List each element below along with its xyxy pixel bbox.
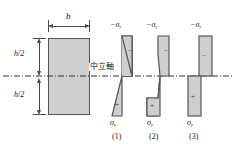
stress-diagram-3-bottom-subscript: y [191,122,193,127]
stress-diagram-3-shape [186,36,216,116]
h2-top-dimension-line [39,41,40,73]
figure-canvas: b h/2 h/2 中立軸 − + −σy σy (1) − [0,0,236,153]
stress-diagram-3-top-label: −σy [190,21,202,29]
h2-bottom-tick-lower [33,114,46,115]
stress-diagram-3-bottom-sign: + [191,94,195,101]
b-dimension-line [51,26,87,27]
stress-diagram-2-bottom-subscript: y [151,122,153,127]
h2-bottom-label-text: h/2 [14,90,24,99]
stress-diagram-3-top-sigma: −σ [190,20,199,29]
stress-diagram-3-caption: (3) [189,133,198,141]
stress-diagram-1-shape [110,36,136,116]
stress-diagram-1-top-sigma: −σ [110,20,119,29]
stress-diagram-3-bottom-label: σy [187,119,193,127]
stress-diagram-2-top-sigma: −σ [146,20,155,29]
stress-diagram-1-bottom-label: σy [110,119,116,127]
h2-bottom-arrow-up [37,78,41,83]
h2-top-tick-upper [33,38,46,39]
h2-bottom-dimension-line [39,81,40,112]
stress-diagram-1-caption: (1) [112,133,121,141]
stress-diagram-1-top-subscript: y [119,24,121,29]
b-arrow-right [85,24,90,28]
stress-diagram-1-bottom-sign: + [115,102,119,109]
cross-section-rectangle [48,38,90,115]
stress-diagram-3-top-subscript: y [199,24,201,29]
stress-diagram-1-bottom-subscript: y [114,122,116,127]
stress-diagram-2-bottom-label: σy [147,119,153,127]
stress-diagram-3-top-sign: − [202,53,206,60]
stress-diagram-2-top-label: −σy [146,21,158,29]
stress-diagram-2-top-subscript: y [155,24,157,29]
stress-diagram-2-top-sign: − [164,48,168,55]
b-arrow-left [48,24,53,28]
stress-diagram-1-top-label: −σy [110,21,122,29]
stress-diagram-2-bottom-sign: + [150,103,154,110]
b-label: b [66,12,71,21]
h2-top-arrow-down [37,71,41,76]
h2-top-label-text: h/2 [14,49,24,58]
h2-bottom-label: h/2 [14,91,24,99]
h2-top-label: h/2 [14,50,24,58]
stress-diagram-1-top-sign: − [128,48,132,55]
stress-diagram-2-caption: (2) [149,133,158,141]
